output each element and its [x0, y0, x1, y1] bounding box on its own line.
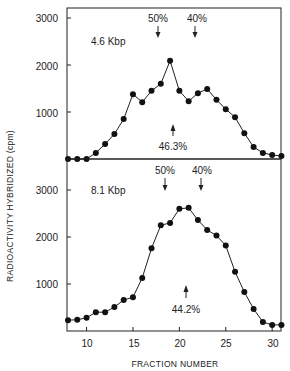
data-point [204, 227, 210, 233]
data-point [93, 150, 99, 156]
data-point [149, 245, 155, 251]
data-point [130, 294, 136, 300]
top-marker-40-label: 40% [187, 13, 207, 24]
data-point [93, 309, 99, 315]
data-point [241, 289, 247, 295]
data-point [149, 88, 155, 94]
data-point [139, 99, 145, 105]
data-point [102, 141, 108, 147]
data-point [176, 206, 182, 212]
bottom-peak-note: 44.2% [172, 304, 200, 315]
density-gradient-chart: 3000 2000 1000 4.6 Kbp 50% 40% 46.3% 300… [0, 0, 290, 371]
data-point [121, 297, 127, 303]
data-point [84, 315, 90, 321]
top-ytick-3000: 3000 [36, 13, 59, 24]
bottom-marker-50-label: 50% [155, 165, 175, 176]
data-point [65, 317, 71, 323]
data-point [176, 88, 182, 94]
y-axis-title: RADIOACTIVITY HYBRIDIZED (cpm) [5, 130, 15, 282]
data-point [195, 217, 201, 223]
xtick-15: 15 [128, 338, 140, 349]
data-point [74, 317, 80, 323]
data-point [223, 106, 229, 112]
data-point [213, 233, 219, 239]
data-point [204, 86, 210, 92]
xtick-20: 20 [174, 338, 186, 349]
data-point [278, 153, 284, 159]
data-point [102, 309, 108, 315]
bottom-ytick-2000: 2000 [36, 232, 59, 243]
data-point [158, 222, 164, 228]
data-point [269, 322, 275, 328]
xtick-30: 30 [267, 338, 279, 349]
data-point [232, 114, 238, 120]
xtick-10: 10 [81, 338, 93, 349]
data-point [241, 130, 247, 136]
top-marker-40-arrow-icon [193, 26, 198, 38]
data-point [251, 306, 257, 312]
x-axis-title: FRACTION NUMBER [131, 359, 218, 369]
bottom-ytick-1000: 1000 [36, 279, 59, 290]
top-y-ticks [67, 18, 71, 112]
top-marker-50-label: 50% [148, 13, 168, 24]
data-point [158, 81, 164, 87]
top-marker-50-arrow-icon [156, 26, 161, 38]
data-point [186, 205, 192, 211]
top-peak-arrow-icon [171, 124, 176, 136]
data-point [213, 97, 219, 103]
data-point [111, 304, 117, 310]
bottom-ytick-3000: 3000 [36, 185, 59, 196]
data-point [139, 275, 145, 281]
data-point [269, 152, 275, 158]
data-point [167, 220, 173, 226]
top-peak-note: 46.3% [159, 141, 187, 152]
data-point [111, 131, 117, 137]
data-point [251, 144, 257, 150]
data-point [186, 98, 192, 104]
top-panel: 3000 2000 1000 4.6 Kbp 50% 40% 46.3% [36, 8, 285, 162]
top-ytick-2000: 2000 [36, 61, 59, 72]
bottom-panel-label: 8.1 Kbp [91, 185, 126, 196]
data-point [130, 91, 136, 97]
data-point [195, 90, 201, 96]
bottom-panel: 3000 2000 1000 8.1 Kbp 50% 40% 44.2% 10 … [36, 159, 285, 349]
top-panel-label: 4.6 Kbp [91, 36, 126, 47]
data-point [167, 58, 173, 64]
data-point [260, 150, 266, 156]
bottom-y-ticks [67, 190, 71, 284]
data-point [223, 242, 229, 248]
bottom-x-ticks [87, 327, 273, 331]
top-plot-frame [67, 8, 281, 159]
bottom-peak-arrow-icon [184, 285, 189, 298]
data-point [121, 116, 127, 122]
xtick-25: 25 [220, 338, 232, 349]
data-point [260, 319, 266, 325]
top-ytick-1000: 1000 [36, 108, 59, 119]
data-point [278, 322, 284, 328]
bottom-marker-40-arrow-icon [199, 178, 204, 191]
bottom-marker-50-arrow-icon [163, 178, 168, 191]
bottom-marker-40-label: 40% [192, 165, 212, 176]
data-point [232, 269, 238, 275]
